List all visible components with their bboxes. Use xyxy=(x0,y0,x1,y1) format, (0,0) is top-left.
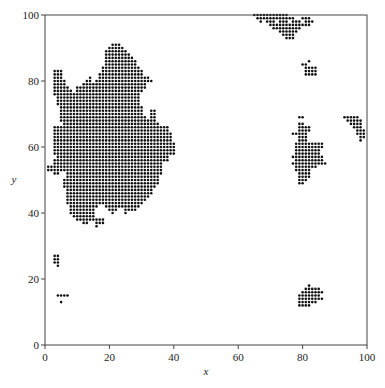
data-point xyxy=(79,205,82,208)
data-point xyxy=(308,156,311,159)
data-point xyxy=(118,113,121,116)
data-point xyxy=(282,27,285,30)
data-point xyxy=(86,172,89,175)
data-point xyxy=(86,146,89,149)
data-point xyxy=(79,93,82,96)
data-point xyxy=(163,136,166,139)
data-point xyxy=(69,159,72,162)
data-point xyxy=(89,182,92,185)
data-point xyxy=(127,146,130,149)
data-point xyxy=(76,162,79,165)
data-point xyxy=(127,156,130,159)
data-point xyxy=(53,129,56,132)
data-point xyxy=(134,175,137,178)
data-point xyxy=(111,86,114,89)
data-point xyxy=(66,103,69,106)
data-point xyxy=(105,182,108,185)
data-point xyxy=(118,202,121,205)
data-point xyxy=(124,156,127,159)
data-point xyxy=(115,172,118,175)
data-point xyxy=(137,199,140,202)
data-point xyxy=(308,301,311,304)
data-point xyxy=(124,123,127,126)
data-point xyxy=(134,60,137,63)
data-point xyxy=(95,199,98,202)
data-point xyxy=(108,202,111,205)
data-point xyxy=(121,156,124,159)
data-point xyxy=(127,192,130,195)
data-point xyxy=(153,179,156,182)
data-point xyxy=(53,126,56,129)
data-point xyxy=(298,159,301,162)
data-point xyxy=(150,113,153,116)
data-point xyxy=(127,83,130,86)
data-point xyxy=(317,159,320,162)
data-point xyxy=(153,172,156,175)
data-point xyxy=(53,169,56,172)
data-point xyxy=(69,179,72,182)
data-point xyxy=(147,166,150,169)
data-point xyxy=(134,146,137,149)
data-point xyxy=(86,169,89,172)
data-point xyxy=(118,195,121,198)
data-point xyxy=(137,182,140,185)
data-point xyxy=(285,37,288,40)
data-point xyxy=(82,139,85,142)
data-point xyxy=(124,96,127,99)
data-point xyxy=(301,136,304,139)
data-point xyxy=(63,149,66,152)
data-point xyxy=(76,149,79,152)
data-point xyxy=(89,185,92,188)
data-point xyxy=(95,103,98,106)
data-point xyxy=(118,43,121,46)
data-point xyxy=(124,63,127,66)
data-point xyxy=(111,67,114,70)
data-point xyxy=(121,185,124,188)
data-point xyxy=(98,136,101,139)
data-point xyxy=(95,225,98,228)
data-point xyxy=(321,146,324,149)
data-point xyxy=(134,80,137,83)
data-point xyxy=(89,195,92,198)
data-point xyxy=(82,86,85,89)
data-point xyxy=(98,126,101,129)
data-point xyxy=(73,146,76,149)
data-point xyxy=(115,90,118,93)
data-point xyxy=(89,192,92,195)
data-point xyxy=(89,113,92,116)
data-point xyxy=(79,116,82,119)
data-point xyxy=(66,149,69,152)
data-point xyxy=(105,152,108,155)
data-point xyxy=(95,162,98,165)
data-point xyxy=(69,182,72,185)
data-point xyxy=(121,126,124,129)
data-point xyxy=(147,133,150,136)
data-point xyxy=(66,100,69,103)
data-point xyxy=(144,156,147,159)
data-point xyxy=(76,156,79,159)
data-point xyxy=(160,139,163,142)
data-point xyxy=(134,90,137,93)
data-point xyxy=(92,83,95,86)
data-point xyxy=(131,129,134,132)
data-point xyxy=(57,93,60,96)
data-point xyxy=(295,169,298,172)
data-point xyxy=(118,109,121,112)
data-point xyxy=(308,166,311,169)
data-point xyxy=(53,139,56,142)
data-point xyxy=(127,185,130,188)
y-axis-label: y xyxy=(11,173,17,185)
data-point xyxy=(153,129,156,132)
data-point xyxy=(69,195,72,198)
data-point xyxy=(92,113,95,116)
data-point xyxy=(73,139,76,142)
data-point xyxy=(137,169,140,172)
y-tick-label: 0 xyxy=(34,339,40,351)
data-point xyxy=(76,106,79,109)
data-point xyxy=(102,222,105,225)
data-point xyxy=(108,73,111,76)
data-point xyxy=(131,116,134,119)
data-point xyxy=(153,152,156,155)
data-point xyxy=(95,192,98,195)
data-point xyxy=(288,30,291,33)
